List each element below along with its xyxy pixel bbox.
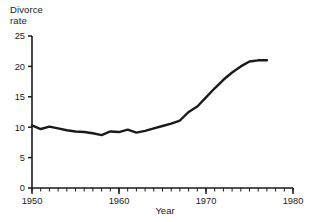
plot-area: 0510152025 1950196019701980 [0, 0, 318, 222]
y-tick-label: 0 [20, 183, 25, 193]
x-axis-title-wrap: Year [0, 205, 318, 216]
divorce-rate-line [32, 60, 267, 135]
y-tick-label: 5 [20, 153, 25, 163]
y-tick-label: 10 [15, 123, 25, 133]
y-tick-label: 25 [15, 31, 25, 41]
y-axis-tick-labels: 0510152025 [15, 31, 25, 193]
x-axis-title: Year [155, 205, 174, 216]
y-tick-label: 20 [15, 62, 25, 72]
y-tick-label: 15 [15, 92, 25, 102]
divorce-rate-chart: Divorce rate 0510152025 1950196019701980… [0, 0, 318, 222]
